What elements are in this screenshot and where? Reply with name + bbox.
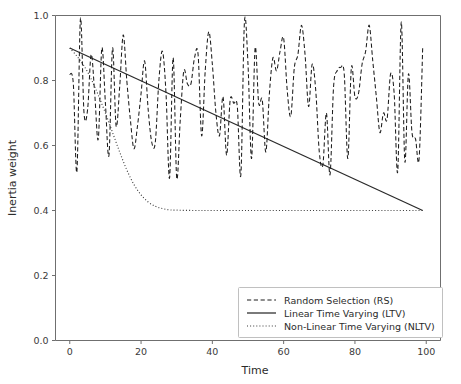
legend-label-ltv: Linear Time Varying (LTV): [284, 308, 405, 319]
series-line-ltv: [70, 48, 423, 211]
x-tick-label: 80: [349, 346, 361, 357]
x-tick-label: 60: [278, 346, 290, 357]
y-tick-label: 0.6: [33, 140, 48, 151]
x-tick-label: 0: [67, 346, 73, 357]
chart-canvas: 0.00.20.40.60.81.0 020406080100 Inertia …: [0, 0, 461, 384]
legend-label-rs: Random Selection (RS): [284, 295, 393, 306]
y-tick-label: 0.8: [33, 75, 48, 86]
chart-legend: Random Selection (RS) Linear Time Varyin…: [239, 288, 443, 338]
x-tick-label: 20: [135, 346, 147, 357]
y-axis-tick-labels: 0.00.20.40.60.81.0: [33, 10, 48, 346]
legend-label-nltv: Non-Linear Time Varying (NLTV): [284, 321, 435, 332]
series-layer: [70, 17, 423, 210]
y-axis-title: Inertia weight: [6, 139, 19, 216]
y-tick-label: 0.0: [33, 335, 48, 346]
x-tick-label: 100: [417, 346, 435, 357]
y-tick-label: 1.0: [33, 10, 48, 21]
y-tick-label: 0.4: [33, 205, 48, 216]
y-tick-label: 0.2: [33, 270, 48, 281]
chart-figure: 0.00.20.40.60.81.0 020406080100 Inertia …: [0, 0, 461, 384]
x-axis-title: Time: [241, 364, 269, 377]
x-tick-label: 40: [206, 346, 218, 357]
series-line-rs: [70, 17, 423, 179]
x-axis-tick-labels: 020406080100: [67, 346, 436, 357]
